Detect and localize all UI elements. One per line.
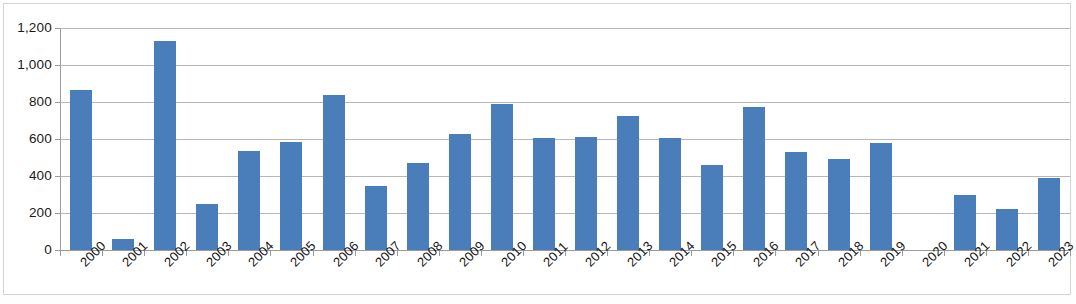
x-axis-tick-label: 2006 — [330, 238, 362, 270]
x-axis-tick-label: 2005 — [287, 238, 319, 270]
x-axis-tick-label: 2013 — [624, 238, 656, 270]
x-axis-tick-label: 2010 — [498, 238, 530, 270]
x-axis-tick-label: 2012 — [582, 238, 614, 270]
x-axis-tick-label: 2022 — [1003, 238, 1035, 270]
x-axis-tick-label: 2020 — [919, 238, 951, 270]
x-axis-tick-label: 2016 — [750, 238, 782, 270]
x-axis-tick-label: 2002 — [161, 238, 193, 270]
x-axis-tick-label: 2007 — [372, 238, 404, 270]
x-axis-tick-label: 2004 — [245, 238, 277, 270]
bar-chart: 02004006008001,0001,200 2000200120022003… — [0, 0, 1076, 304]
x-axis-tick-label: 2009 — [456, 238, 488, 270]
x-axis-tick-label: 2015 — [708, 238, 740, 270]
x-axis-tick-label: 2023 — [1045, 238, 1076, 270]
x-axis-tick-label: 2014 — [666, 238, 698, 270]
x-axis-tick-label: 2018 — [835, 238, 867, 270]
x-axis-tick-label: 2008 — [414, 238, 446, 270]
x-axis-labels: 2000200120022003200420052006200720082009… — [0, 0, 1076, 304]
x-tick-mark — [60, 250, 61, 256]
x-axis-tick-label: 2021 — [961, 238, 993, 270]
x-axis-tick-label: 2001 — [119, 238, 151, 270]
x-axis-tick-label: 2000 — [77, 238, 109, 270]
x-axis-tick-label: 2017 — [792, 238, 824, 270]
x-axis-tick-label: 2019 — [877, 238, 909, 270]
x-axis-tick-label: 2011 — [540, 239, 571, 270]
x-axis-tick-label: 2003 — [203, 238, 235, 270]
